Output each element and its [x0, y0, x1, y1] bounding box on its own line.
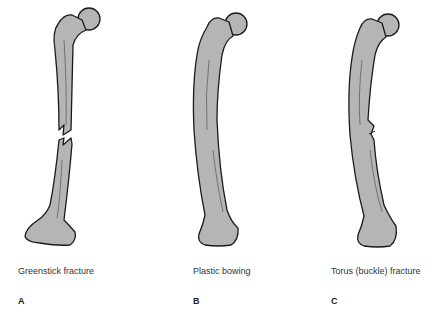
caption-torus-fracture: Torus (buckle) fracture	[331, 266, 421, 276]
panel-a: Greenstick fracture A	[0, 0, 147, 319]
femur-torus-fracture-icon	[294, 0, 441, 260]
panel-label-b: B	[193, 296, 200, 306]
caption-greenstick-fracture: Greenstick fracture	[18, 266, 94, 276]
panel-c: Torus (buckle) fracture C	[294, 0, 441, 319]
panel-b: Plastic bowing B	[147, 0, 294, 319]
panel-label-a: A	[18, 296, 25, 306]
panel-label-c: C	[331, 296, 338, 306]
femur-plastic-bowing-icon	[147, 0, 294, 260]
femur-greenstick-fracture-icon	[0, 0, 147, 260]
caption-plastic-bowing: Plastic bowing	[193, 266, 251, 276]
